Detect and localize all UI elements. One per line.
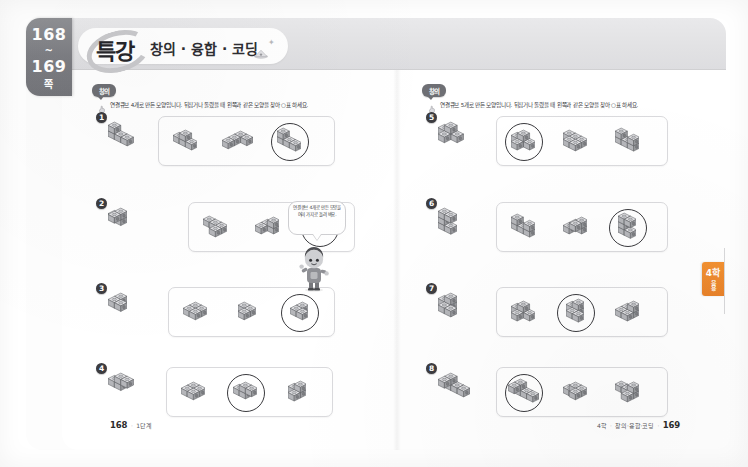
spine-page-start: 168 — [26, 18, 72, 43]
footer-left-label: 1단계 — [136, 422, 151, 429]
reference-cube-shape — [108, 121, 134, 149]
spine-tilde: ~ — [26, 43, 72, 56]
reference-cube-shape — [438, 372, 470, 400]
reference-cube-shape — [108, 207, 127, 229]
option-choice-selected[interactable] — [601, 204, 653, 250]
left-instruction: 연결큐브 4개로 만든 모양입니다. 뒤집거나 돌렸을 때 왼쪽과 같은 모양을… — [110, 101, 308, 109]
problem-row: 8 — [426, 363, 716, 421]
problem-number: 2 — [96, 198, 107, 209]
spine-unit-label: 쪽 — [26, 75, 72, 90]
hint-speech-bubble: 연결큐브 4개로 만든 모양을 여러 가지로 돌려 봐요. — [288, 201, 346, 235]
option-choice[interactable] — [497, 204, 549, 250]
option-choice[interactable] — [549, 204, 601, 250]
cloud-sparkle-icon — [253, 44, 269, 55]
option-choice[interactable] — [159, 118, 211, 164]
pointer-hand-icon — [428, 99, 437, 108]
right-instruction: 연결큐브 5개로 만든 모양입니다. 뒤집거나 돌렸을 때 왼쪽과 같은 모양을… — [440, 101, 638, 109]
side-tab-grade: 4학 — [706, 269, 720, 278]
problem-number: 6 — [426, 198, 437, 209]
option-choice-selected[interactable] — [497, 118, 549, 164]
option-box — [158, 116, 335, 166]
option-choice[interactable] — [601, 369, 653, 415]
footer-left-page: 168 — [110, 420, 127, 430]
problem-row: 3 — [96, 283, 386, 341]
option-choice-selected[interactable] — [497, 369, 549, 415]
spine-page-end: 169 — [26, 56, 72, 75]
option-choice[interactable] — [549, 369, 601, 415]
option-choice[interactable] — [549, 118, 601, 164]
sparkle-icon: ✦ — [268, 38, 275, 47]
pointer-hand-icon — [98, 99, 107, 108]
right-page-footer: 4학 · 창의·융합·코딩 · 169 — [597, 420, 680, 430]
problem-number: 8 — [426, 363, 437, 374]
footer-right-label: 창의·융합·코딩 — [615, 422, 653, 429]
problem-row: 5 — [426, 112, 716, 170]
scanned-page: 168 ~ 169 쪽 특강 창의 · 융합 · 코딩 ✦ 4학 응용 창의 연… — [0, 0, 748, 467]
footer-right-grade: 4학 — [597, 422, 606, 429]
option-choice-selected[interactable] — [219, 369, 271, 415]
page-subtitle: 창의 · 융합 · 코딩 — [150, 38, 258, 58]
option-choice[interactable] — [211, 118, 263, 164]
option-choice[interactable] — [189, 204, 241, 250]
option-choice[interactable] — [169, 289, 221, 335]
right-section-badge: 창의 — [422, 84, 446, 97]
problem-row: 7 — [426, 283, 716, 341]
option-box — [496, 202, 668, 252]
left-section-badge: 창의 — [92, 84, 116, 97]
option-choice-selected[interactable] — [549, 289, 601, 335]
option-box — [166, 367, 333, 417]
option-choice[interactable] — [221, 289, 273, 335]
left-page-footer: 168 · 1단계 — [110, 420, 152, 430]
option-choice[interactable] — [241, 204, 293, 250]
problem-row: 1 — [96, 112, 386, 170]
problem-number: 7 — [426, 283, 437, 294]
problem-number: 1 — [96, 112, 107, 123]
option-choice[interactable] — [601, 289, 653, 335]
problem-number: 4 — [96, 363, 107, 374]
option-box — [496, 287, 668, 337]
student-character-icon — [297, 246, 331, 296]
problem-row: 6 — [426, 198, 716, 256]
option-box — [496, 367, 668, 417]
option-choice[interactable] — [271, 369, 323, 415]
option-choice[interactable] — [497, 289, 549, 335]
reference-cube-shape — [438, 292, 457, 320]
problem-number: 5 — [426, 112, 437, 123]
option-choice[interactable] — [601, 118, 653, 164]
problem-number: 3 — [96, 283, 107, 294]
page-title: 특강 — [96, 33, 134, 65]
page-number-spine: 168 ~ 169 쪽 — [26, 18, 72, 96]
hint-text: 연결큐브 4개로 만든 모양을 여러 가지로 돌려 봐요. — [292, 205, 342, 218]
reference-cube-shape — [108, 292, 127, 315]
footer-left-dot: · — [129, 422, 135, 429]
footer-right-dot-1: · — [608, 422, 614, 429]
option-box — [496, 116, 668, 166]
footer-right-dot-2: · — [655, 422, 661, 429]
problem-row: 4 — [96, 363, 386, 421]
side-tab-rule — [724, 248, 725, 314]
footer-right-page: 169 — [663, 420, 680, 430]
reference-cube-shape — [108, 372, 134, 394]
option-choice-selected[interactable] — [263, 118, 315, 164]
reference-cube-shape — [438, 207, 457, 237]
reference-cube-shape — [438, 121, 464, 146]
option-choice[interactable] — [167, 369, 219, 415]
